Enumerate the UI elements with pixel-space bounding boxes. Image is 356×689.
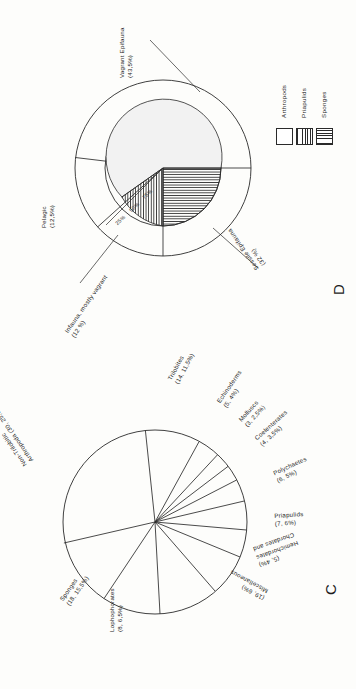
- radius-10: [155, 522, 160, 614]
- legend-label-sponges: Sponges: [320, 91, 327, 118]
- legend-swatch-priapulids: [296, 128, 313, 145]
- panel-d-pie: [0, 0, 356, 340]
- panel-c: Non-Trilobitic Arthropoda (30, 25,5%) Tr…: [0, 340, 356, 689]
- label-pelagic-line1: Pelagic: [40, 205, 48, 228]
- legend-swatch-sponges: [316, 128, 333, 145]
- legend-swatch-arthropods: [276, 128, 293, 145]
- panel-letter-c: C: [322, 583, 339, 595]
- label-pelagic: Pelagic (12,5%): [40, 205, 57, 228]
- radius-1: [145, 431, 155, 523]
- label-vagrant-epifauna: Vagrant Epifauna (43,5%): [118, 27, 135, 78]
- inner-sector-sponges: [163, 168, 221, 226]
- label-vagrant-epifauna-line2: (43,5%): [126, 27, 134, 78]
- label-lophophorates: Lophophorates (8, 6,5%): [108, 588, 125, 632]
- radius-12: [64, 522, 155, 543]
- radius-7: [155, 522, 247, 530]
- legend-label-priapulids: Priapulids: [300, 88, 307, 118]
- leader-vagrant-epifauna: [150, 40, 200, 92]
- panel-d-legend: Arthropods Priapulids Sponges: [268, 60, 348, 170]
- label-lophophorates-line1: Lophophorates: [108, 588, 116, 632]
- label-priapulids: Priapulids (7, 6%): [274, 510, 304, 529]
- figure-container: 25% 50% 75% Vagrant Epifauna (43,5%) Pel…: [0, 0, 356, 689]
- label-lophophorates-line2: (8, 6,5%): [116, 588, 124, 632]
- legend-label-arthropods: Arthropods: [280, 85, 287, 118]
- radius-5: [155, 480, 237, 522]
- radius-9: [155, 522, 215, 591]
- label-vagrant-epifauna-line1: Vagrant Epifauna: [118, 27, 126, 78]
- panel-d: 25% 50% 75% Vagrant Epifauna (43,5%) Pel…: [0, 0, 356, 340]
- label-pelagic-line2: (12,5%): [48, 205, 56, 228]
- leader-infauna: [80, 235, 118, 283]
- panel-letter-d: D: [330, 283, 347, 295]
- radius-8: [155, 522, 240, 557]
